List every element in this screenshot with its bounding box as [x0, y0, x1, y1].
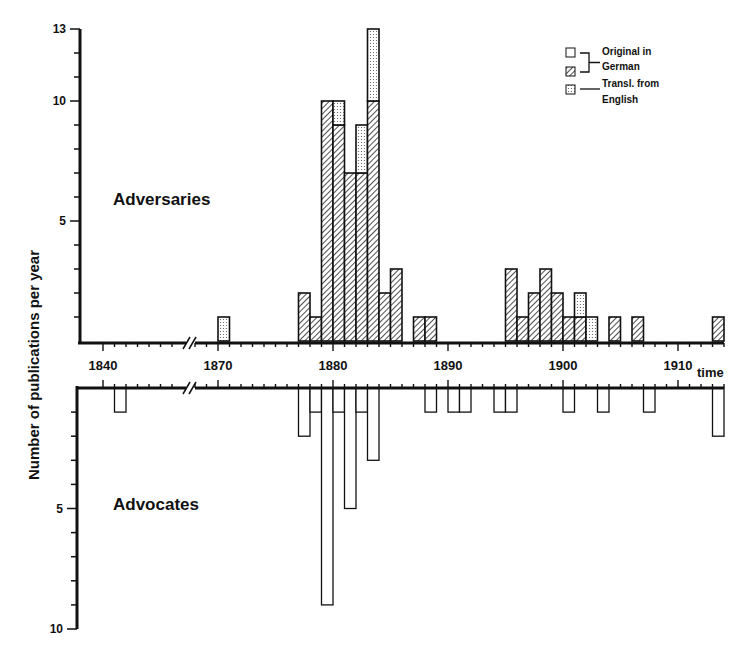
bar-adversaries-1888-hatched	[425, 317, 437, 341]
bar-advocates-1841	[115, 388, 127, 412]
x-tick-1890: 1890	[434, 358, 463, 373]
bar-advocates-1882	[356, 388, 368, 412]
bar-advocates-1913	[713, 388, 725, 436]
bar-adversaries-1878-hatched	[310, 317, 322, 341]
bar-adversaries-1883-dotted	[368, 29, 380, 101]
bar-adversaries-1882-dotted	[356, 125, 368, 173]
legend-text-2: German	[602, 60, 640, 73]
legend-swatch-open	[566, 48, 575, 57]
bar-adversaries-1877-hatched	[299, 293, 311, 341]
adversaries-label: Adversaries	[113, 190, 210, 210]
bar-adversaries-1885-hatched	[391, 269, 403, 341]
bar-advocates-1880	[333, 388, 345, 412]
legend-text-4: English	[602, 93, 638, 106]
bar-advocates-1890	[448, 388, 460, 412]
y-tick-upper-10: 10	[53, 94, 67, 108]
bar-advocates-1877	[299, 388, 311, 436]
bar-adversaries-1881-hatched	[345, 173, 357, 341]
bar-adversaries-1880-hatched	[333, 125, 345, 341]
bar-adversaries-1913-hatched	[713, 317, 725, 341]
bar-adversaries-1897-hatched	[529, 293, 541, 341]
bar-adversaries-1896-hatched	[517, 317, 529, 341]
adversaries-bars	[218, 29, 724, 341]
bar-adversaries-1901-dotted	[575, 293, 587, 317]
x-tick-1900: 1900	[549, 358, 578, 373]
bar-adversaries-1879-hatched	[322, 101, 334, 341]
bar-advocates-1900	[563, 388, 575, 412]
legend-swatch-hatched	[566, 67, 575, 76]
bar-adversaries-1884-hatched	[379, 293, 391, 341]
bar-advocates-1881	[345, 388, 357, 509]
y-tick-lower-10: 10	[50, 622, 64, 636]
advocates-bars	[115, 388, 725, 605]
bar-adversaries-1902-dotted	[586, 317, 598, 341]
bar-advocates-1888	[425, 388, 437, 412]
legend-text-1: Original in	[602, 45, 651, 58]
bar-adversaries-1883-hatched	[368, 101, 380, 341]
bar-advocates-1903	[598, 388, 610, 412]
bar-adversaries-1870-dotted	[218, 317, 230, 341]
bar-adversaries-1901-hatched	[575, 317, 587, 341]
bar-adversaries-1895-hatched	[506, 269, 518, 341]
bar-advocates-1879	[322, 388, 334, 605]
bar-advocates-1878	[310, 388, 322, 412]
y-tick-upper-5: 5	[59, 214, 66, 228]
y-tick-lower-5: 5	[56, 502, 63, 516]
x-tick-1880: 1880	[319, 358, 348, 373]
bar-advocates-1883	[368, 388, 380, 460]
bar-adversaries-1887-hatched	[414, 317, 426, 341]
bar-advocates-1907	[644, 388, 656, 412]
x-tick-1840: 1840	[89, 358, 118, 373]
bar-adversaries-1898-hatched	[540, 269, 552, 341]
bar-adversaries-1899-hatched	[552, 293, 564, 341]
advocates-label: Advocates	[113, 495, 199, 515]
bar-advocates-1891	[460, 388, 472, 412]
bar-adversaries-1880-dotted	[333, 101, 345, 125]
bar-adversaries-1904-hatched	[609, 317, 621, 341]
bar-adversaries-1900-hatched	[563, 317, 575, 341]
legend-text-3: Transl. from	[602, 77, 659, 90]
x-axis-time-label: time	[697, 365, 724, 380]
x-tick-1910: 1910	[664, 358, 693, 373]
y-axis-label: Number of publications per year	[25, 250, 42, 480]
bar-adversaries-1882-hatched	[356, 173, 368, 341]
legend-swatch-dotted	[566, 85, 575, 94]
legend-swatches	[566, 48, 600, 94]
y-tick-upper-13: 13	[53, 22, 67, 36]
bar-advocates-1895	[506, 388, 518, 412]
bar-advocates-1894	[494, 388, 506, 412]
x-tick-1870: 1870	[204, 358, 233, 373]
bar-adversaries-1906-hatched	[632, 317, 644, 341]
